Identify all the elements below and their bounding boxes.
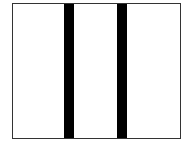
divider-bar-left: [64, 4, 74, 138]
divider-bar-right: [117, 4, 127, 138]
panel-left: [13, 4, 64, 138]
panel-middle: [74, 4, 117, 138]
diagram-canvas: [0, 0, 185, 149]
panel-right: [127, 4, 180, 138]
outer-frame: [12, 3, 181, 139]
